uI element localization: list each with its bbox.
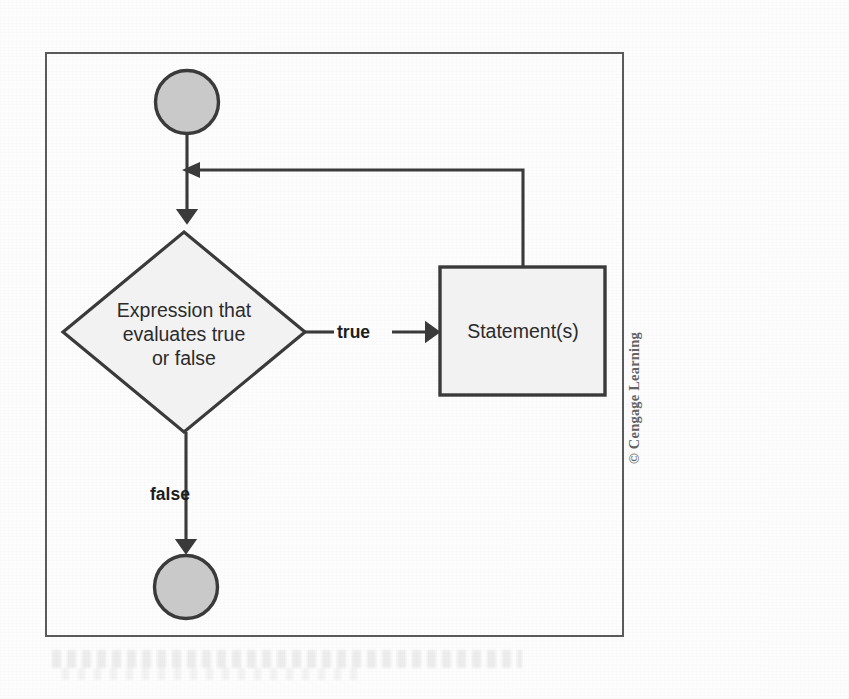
- edge-loop-back: [196, 170, 523, 267]
- flowchart-canvas: [0, 0, 849, 699]
- start-terminator-node: [156, 71, 219, 134]
- end-terminator-node: [155, 556, 218, 619]
- loop-back-arrowhead: [182, 162, 200, 178]
- copyright-credit: © Cengage Learning: [626, 254, 643, 464]
- figure-page: Expression that evaluates true or false …: [0, 0, 849, 699]
- process-statement-node: [440, 267, 605, 395]
- edge-label-true: true: [337, 322, 370, 343]
- edge-label-false: false: [150, 484, 190, 505]
- decision-diamond-node: [63, 232, 305, 432]
